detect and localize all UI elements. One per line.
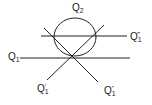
q2-ellipse [54,18,96,56]
label-subscript: 1 [112,90,116,97]
label-subscript: 1 [45,88,49,95]
label-base: Q [37,83,45,94]
label-superscript: ″ [112,85,114,91]
label-q2: Q2 [72,3,84,16]
label-q1-triple-prime: Q1‴ [130,29,140,45]
label-base: Q [104,85,112,96]
label-q1: Q1 [8,52,20,65]
label-q1-prime: Q1′ [37,81,46,97]
label-subscript: 1 [16,56,20,63]
q1-prime-line [47,25,104,80]
label-superscript: ‴ [138,31,140,37]
label-superscript: ′ [45,83,46,89]
label-base: Q [72,2,80,13]
label-q1-double-prime: Q1″ [104,83,114,99]
label-base: Q [8,51,16,62]
label-subscript: 2 [80,7,84,14]
label-subscript: 1 [138,36,142,43]
label-base: Q [130,31,138,42]
